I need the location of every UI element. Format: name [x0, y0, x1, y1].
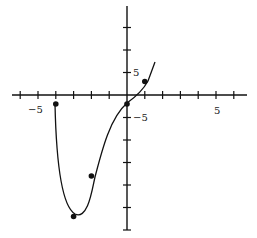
function-curve	[55, 62, 155, 215]
data-point	[53, 101, 59, 107]
data-point	[124, 101, 130, 107]
data-point	[71, 214, 77, 220]
x-label-neg5: −5	[28, 104, 43, 115]
y-label-neg5: −5	[133, 112, 148, 123]
data-point	[89, 173, 95, 179]
function-graph: −5 5 5 −5	[0, 0, 257, 238]
marked-points	[53, 79, 148, 220]
data-point	[142, 79, 148, 85]
y-label-pos5: 5	[133, 67, 139, 78]
x-label-pos5: 5	[214, 105, 220, 116]
